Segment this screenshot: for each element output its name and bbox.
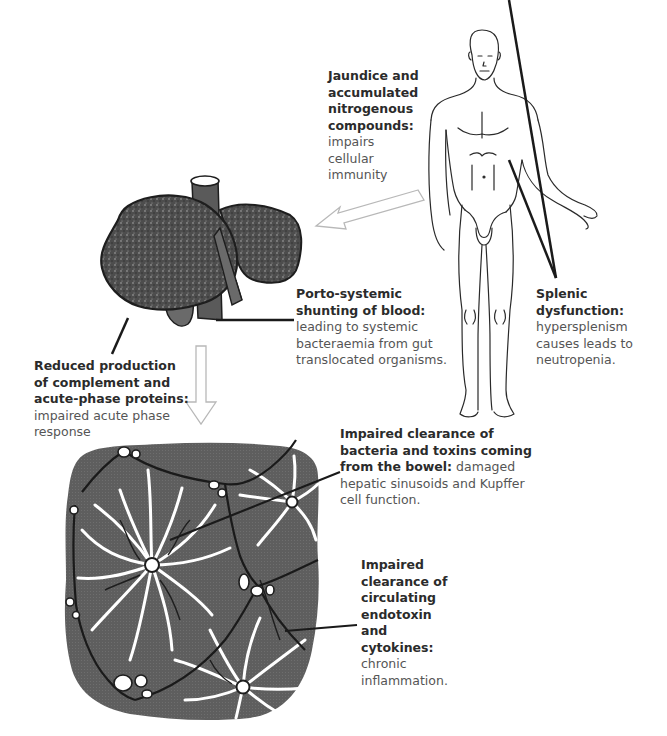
central-vein (145, 558, 159, 572)
annotation-body: translocated organisms. (296, 352, 466, 369)
annotation-body: impairs (328, 134, 438, 151)
annotation-heading: of complement and (34, 375, 204, 392)
splenic-pointer-line (509, 0, 556, 278)
annotation-body: bacteraemia from gut (296, 336, 466, 353)
annotation-body: chronic (361, 656, 471, 673)
annotation-heading: nitrogenous (328, 101, 438, 118)
liver-illustration (101, 176, 301, 326)
annotation-heading: compounds: (328, 118, 438, 135)
arrow-body-to-liver (316, 190, 424, 229)
annotation-heading: Impaired clearance of (340, 426, 555, 443)
annotation-heading: cytokines: (361, 640, 471, 657)
annotation-heading: circulating (361, 590, 471, 607)
annotation-body: impaired acute phase (34, 408, 204, 425)
annotation-heading: shunting of blood: (296, 303, 466, 320)
annotation-reduced-complement: Reduced production of complement and acu… (34, 358, 204, 441)
annotation-heading: Reduced production (34, 358, 204, 375)
annotation-heading: and (361, 623, 471, 640)
annotation-heading: endotoxin (361, 607, 471, 624)
annotation-body: cell function. (340, 492, 555, 509)
annotation-body: response (34, 424, 204, 441)
annotation-body: neutropenia. (536, 352, 666, 369)
annotation-porto-systemic-shunting: Porto-systemic shunting of blood: leadin… (296, 286, 466, 369)
annotation-jaundice: Jaundice and accumulated nitrogenous com… (328, 68, 438, 184)
liver-lobules-histology (65, 440, 319, 720)
annotation-heading: accumulated (328, 85, 438, 102)
annotation-body: cellular (328, 151, 438, 168)
annotation-heading: from the bowel: (340, 459, 452, 474)
annotation-splenic-dysfunction: Splenic dysfunction: hypersplenism cause… (536, 286, 666, 369)
annotation-heading: Impaired (361, 557, 471, 574)
annotation-heading: bacteria and toxins coming (340, 443, 555, 460)
annotation-body: causes leads to (536, 336, 666, 353)
central-vein (237, 681, 250, 694)
annotation-body: leading to systemic (296, 319, 466, 336)
annotation-body: immunity (328, 167, 438, 184)
annotation-heading: acute-phase proteins: (34, 391, 204, 408)
annotation-heading: Splenic (536, 286, 666, 303)
annotation-heading: Porto-systemic (296, 286, 466, 303)
annotation-heading: clearance of (361, 574, 471, 591)
annotation-heading: dysfunction: (536, 303, 666, 320)
annotation-endotoxin-clearance: Impaired clearance of circulating endoto… (361, 557, 471, 689)
annotation-body: damaged (456, 459, 515, 474)
annotation-body: hepatic sinusoids and Kupffer (340, 476, 555, 493)
annotation-heading: Jaundice and (328, 68, 438, 85)
annotation-bacteria-clearance: Impaired clearance of bacteria and toxin… (340, 426, 555, 509)
central-vein (287, 497, 298, 508)
annotation-body: inflammation. (361, 673, 471, 690)
annotation-body: hypersplenism (536, 319, 666, 336)
complement-pointer-line (112, 318, 128, 354)
